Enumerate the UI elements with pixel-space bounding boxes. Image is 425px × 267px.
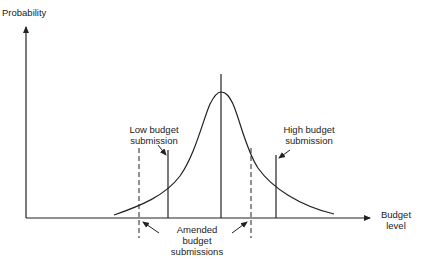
amended-budget-label: Amended budget submissions: [160, 224, 234, 257]
amended-label-line3: submissions: [160, 246, 234, 257]
low-budget-label: Low budget submission: [118, 124, 190, 146]
low-label-line2: submission: [118, 135, 190, 146]
high-budget-label: High budget submission: [271, 124, 347, 146]
low-label-pointer: [158, 145, 166, 155]
y-axis-label: Probability: [2, 7, 46, 18]
amended-label-line1: Amended: [160, 224, 234, 235]
amended-right-pointer: [232, 222, 247, 233]
x-axis-label: Budget level: [375, 209, 417, 231]
high-label-line1: High budget: [271, 124, 347, 135]
x-axis-label-line2: level: [375, 220, 417, 231]
high-label-line2: submission: [271, 135, 347, 146]
amended-left-pointer: [143, 222, 159, 233]
low-label-line1: Low budget: [118, 124, 190, 135]
probability-curve: [114, 92, 334, 215]
high-label-pointer: [279, 150, 290, 158]
x-axis-label-line1: Budget: [375, 209, 417, 220]
amended-label-line2: budget: [160, 235, 234, 246]
y-axis-label-text: Probability: [2, 7, 46, 18]
